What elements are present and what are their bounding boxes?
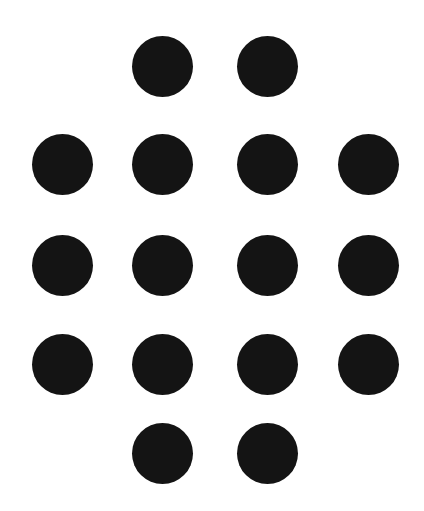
dot-r3-c4	[338, 235, 399, 296]
dot-r5-c2	[132, 423, 193, 484]
dot-r1-c3	[237, 36, 298, 97]
dot-r3-c1	[32, 235, 93, 296]
dot-r5-c3	[237, 423, 298, 484]
dot-r4-c1	[32, 334, 93, 395]
dot-r2-c3	[237, 134, 298, 195]
dot-r2-c1	[32, 134, 93, 195]
dot-r4-c4	[338, 334, 399, 395]
dot-r3-c2	[132, 235, 193, 296]
dot-r1-c2	[132, 36, 193, 97]
dot-pattern-figure	[0, 0, 424, 511]
dot-r4-c3	[237, 334, 298, 395]
dot-r2-c2	[132, 134, 193, 195]
dot-r2-c4	[338, 134, 399, 195]
dot-r4-c2	[132, 334, 193, 395]
dot-r3-c3	[237, 235, 298, 296]
